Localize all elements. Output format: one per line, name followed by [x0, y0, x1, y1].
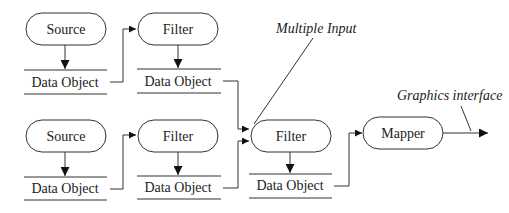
annotation-leader-line [254, 38, 313, 124]
connector-arrow-icon [110, 135, 136, 189]
data-object-4: Data Object [137, 176, 221, 199]
annotation-leader-line [461, 106, 471, 131]
multiple-input-annotation: Multiple Input [275, 21, 358, 36]
data-object-3-label: Data Object [31, 181, 98, 196]
pipeline-diagram: Source Data Object Filter Data Object Mu… [0, 0, 509, 213]
connector-arrow-icon [223, 141, 249, 188]
connector-arrow-icon [223, 81, 249, 129]
source-node-1-label: Source [47, 22, 86, 37]
filter-node-1: Filter [138, 13, 218, 45]
mapper-node-label: Mapper [381, 126, 425, 141]
data-object-4-label: Data Object [144, 180, 211, 195]
mapper-node: Mapper [363, 117, 443, 149]
data-object-1: Data Object [24, 70, 107, 94]
data-object-5: Data Object [249, 174, 332, 198]
data-object-2-label: Data Object [144, 74, 211, 89]
data-object-2: Data Object [137, 69, 221, 93]
data-object-1-label: Data Object [31, 75, 98, 90]
data-object-5-label: Data Object [256, 178, 323, 193]
source-node-2: Source [26, 120, 106, 152]
filter-node-2-label: Filter [163, 129, 194, 144]
data-object-3: Data Object [24, 177, 107, 200]
filter-node-2: Filter [138, 120, 218, 152]
filter-node-3-label: Filter [276, 129, 307, 144]
connector-arrow-icon [334, 133, 362, 186]
graphics-interface-annotation: Graphics interface [397, 88, 502, 103]
connector-arrow-icon [110, 29, 136, 82]
source-node-2-label: Source [47, 129, 86, 144]
filter-node-1-label: Filter [163, 22, 194, 37]
filter-node-3: Filter [251, 120, 331, 152]
source-node-1: Source [26, 13, 106, 45]
